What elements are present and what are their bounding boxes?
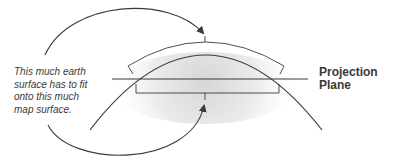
caption-line: map surface. [14,104,134,117]
caption-line: surface has to fit [14,79,134,92]
caption-line: This much earth [14,66,134,79]
top-arrow [45,8,203,55]
plane-label-line: Projection [319,66,378,79]
caption-text: This much earth surface has to fit onto … [14,66,134,116]
caption-line: onto this much [14,91,134,104]
plane-label-line: Plane [319,79,378,92]
shaded-region [113,52,297,124]
projection-plane-label: Projection Plane [319,66,378,91]
